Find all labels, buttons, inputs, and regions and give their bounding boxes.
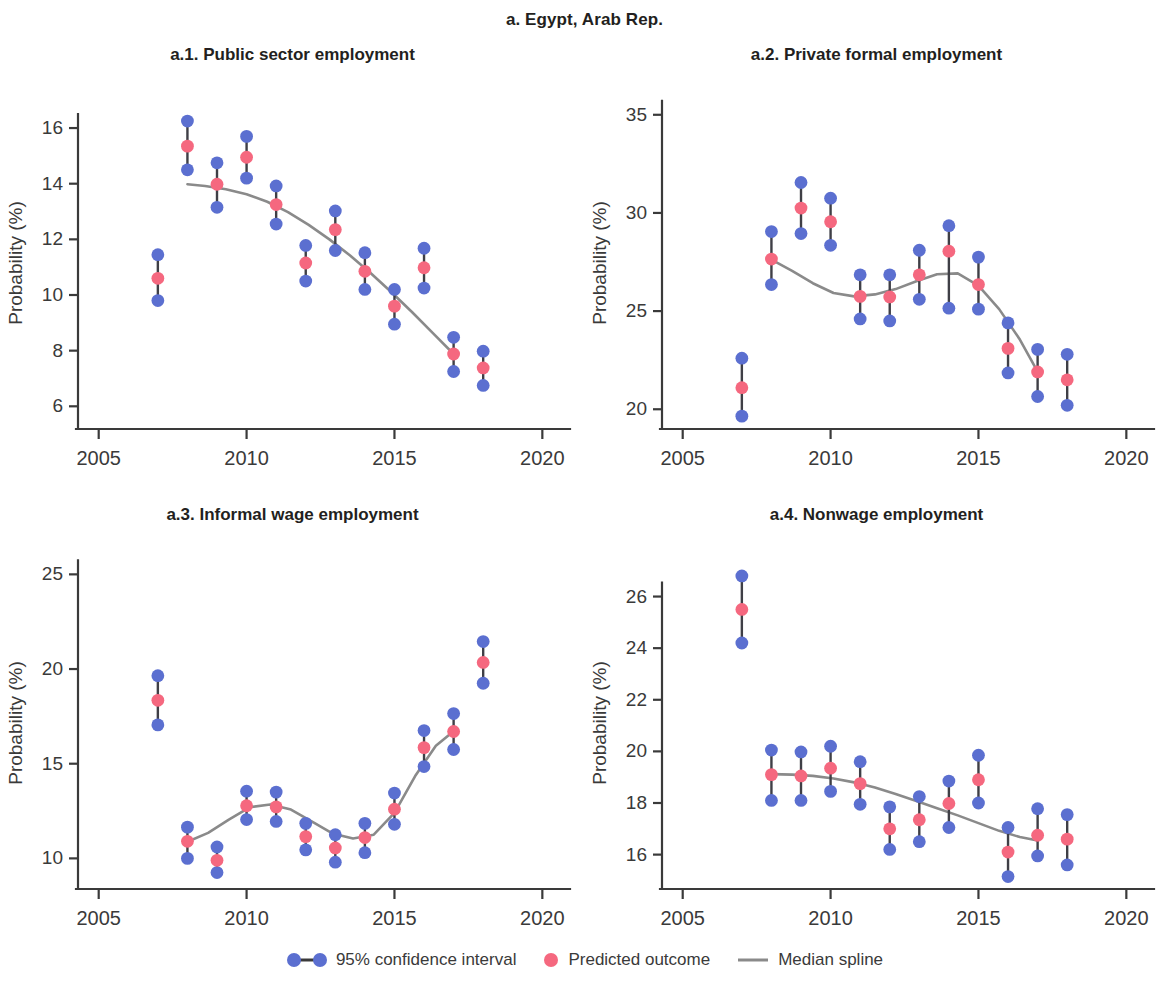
predicted-outcome-point <box>447 725 460 738</box>
legend-label-predicted-outcome: Predicted outcome <box>568 950 710 970</box>
predicted-outcome-point <box>358 831 371 844</box>
predicted-outcome-point <box>972 278 985 291</box>
predicted-outcome-point <box>151 694 164 707</box>
y-tick-label: 16 <box>626 844 647 865</box>
x-tick-label: 2015 <box>956 447 1001 469</box>
x-tick-label: 2010 <box>224 907 269 929</box>
x-axis-ticks: 2005201020152020 <box>660 889 1148 929</box>
predicted-outcome-point <box>477 362 490 375</box>
y-tick-label: 6 <box>52 395 63 416</box>
predicted-outcome-point <box>854 777 867 790</box>
confidence-interval-series <box>735 176 1073 422</box>
predicted-outcome-point <box>151 272 164 285</box>
predicted-outcome-point <box>942 797 955 810</box>
predicted-outcome-point <box>824 215 837 228</box>
median-spline-line <box>187 731 453 842</box>
predicted-outcome-point <box>795 770 808 783</box>
predicted-outcome-point <box>240 799 253 812</box>
y-tick-label: 22 <box>626 689 647 710</box>
y-tick-label: 18 <box>626 792 647 813</box>
median-spline-line <box>771 774 1037 840</box>
x-axis-ticks: 2005201020152020 <box>660 429 1148 469</box>
y-tick-label: 8 <box>52 340 63 361</box>
x-axis-ticks: 2005201020152020 <box>76 429 564 469</box>
y-tick-label: 20 <box>626 740 647 761</box>
x-tick-label: 2005 <box>76 447 121 469</box>
legend-item-median-spline: Median spline <box>736 950 883 970</box>
panel-private-formal-employment: a.2. Private formal employment 202530352… <box>584 45 1169 485</box>
x-tick-label: 2020 <box>1104 907 1149 929</box>
y-tick-label: 26 <box>626 586 647 607</box>
predicted-outcome-point <box>942 245 955 258</box>
y-tick-label: 16 <box>42 117 63 138</box>
y-tick-label: 12 <box>42 228 63 249</box>
axes <box>76 114 570 429</box>
x-axis-ticks: 2005201020152020 <box>76 889 564 929</box>
predicted-outcome-point <box>477 656 490 669</box>
predicted-outcome-point <box>1031 829 1044 842</box>
predicted-outcome-point <box>1061 833 1074 846</box>
y-tick-label: 14 <box>42 173 64 194</box>
y-tick-label: 35 <box>626 104 647 125</box>
confidence-interval-series <box>151 635 489 879</box>
y-tick-label: 24 <box>626 637 648 658</box>
y-axis-label: Probability (%) <box>5 201 26 325</box>
x-tick-label: 2015 <box>956 907 1001 929</box>
y-tick-label: 10 <box>42 847 63 868</box>
predicted-outcome-point <box>418 261 431 274</box>
predicted-outcome-point <box>854 290 867 303</box>
legend-label-confidence-interval: 95% confidence interval <box>336 950 517 970</box>
legend-label-median-spline: Median spline <box>778 950 883 970</box>
predicted-outcome-point <box>1002 846 1015 859</box>
predicted-outcome-point <box>447 348 460 361</box>
confidence-interval-series <box>735 570 1073 883</box>
y-axis-label: Probability (%) <box>589 661 610 785</box>
predicted-outcome-point <box>299 830 312 843</box>
x-tick-label: 2020 <box>520 907 565 929</box>
plot-area-a1: 68101214162005201020152020Probability (%… <box>0 45 585 485</box>
confidence-interval-icon <box>286 952 328 968</box>
predicted-outcome-point <box>972 773 985 786</box>
axes <box>660 101 1154 429</box>
predicted-outcome-point <box>795 202 808 215</box>
predicted-outcome-point <box>735 381 748 394</box>
predicted-outcome-point <box>883 822 896 835</box>
x-tick-label: 2010 <box>224 447 269 469</box>
y-axis-ticks: 10152025 <box>42 563 78 868</box>
predicted-outcome-point <box>735 603 748 616</box>
x-tick-label: 2010 <box>808 447 853 469</box>
predicted-outcome-point <box>270 198 283 211</box>
y-axis-label: Probability (%) <box>589 201 610 325</box>
y-tick-label: 15 <box>42 753 63 774</box>
x-tick-label: 2020 <box>1104 447 1149 469</box>
predicted-outcome-series <box>735 202 1073 394</box>
chart-legend: 95% confidence interval Predicted outcom… <box>0 950 1169 970</box>
predicted-outcome-point <box>181 140 194 153</box>
median-spline-line <box>771 260 1037 372</box>
y-tick-label: 25 <box>626 300 647 321</box>
predicted-outcome-icon <box>542 952 560 968</box>
median-spline-icon <box>736 952 770 968</box>
confidence-interval-series <box>151 115 489 392</box>
predicted-outcome-point <box>418 741 431 754</box>
x-tick-label: 2005 <box>76 907 121 929</box>
predicted-outcome-point <box>913 813 926 826</box>
y-axis-ticks: 20253035 <box>626 104 662 419</box>
confidence-interval-marker <box>942 219 955 314</box>
predicted-outcome-point <box>388 300 401 313</box>
predicted-outcome-series <box>735 603 1073 858</box>
predicted-outcome-point <box>1031 366 1044 379</box>
x-tick-label: 2005 <box>660 907 705 929</box>
predicted-outcome-point <box>211 854 224 867</box>
plot-area-a2: 202530352005201020152020Probability (%) <box>584 45 1169 485</box>
panel-public-sector-employment: a.1. Public sector employment 6810121416… <box>0 45 585 485</box>
figure-title: a. Egypt, Arab Rep. <box>0 10 1169 30</box>
plot-area-a4: 1618202224262005201020152020Probability … <box>584 505 1169 945</box>
y-axis-ticks: 161820222426 <box>626 586 662 865</box>
y-axis-label: Probability (%) <box>5 661 26 785</box>
predicted-outcome-point <box>329 223 342 236</box>
y-axis-ticks: 6810121416 <box>42 117 78 416</box>
predicted-outcome-point <box>181 835 194 848</box>
median-spline-line <box>187 184 453 354</box>
predicted-outcome-point <box>299 257 312 270</box>
